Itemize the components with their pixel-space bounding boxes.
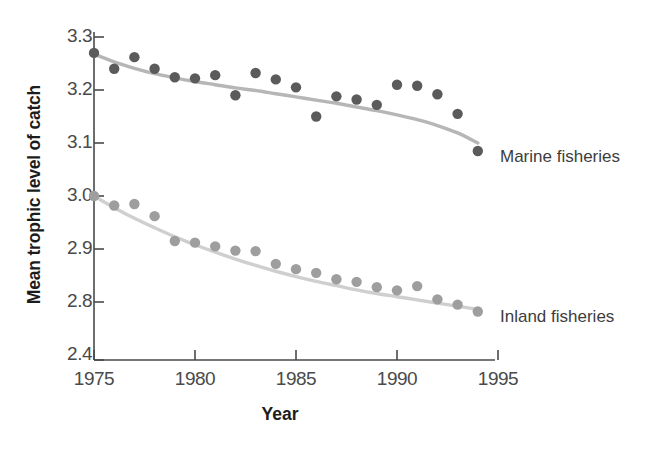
data-point: [271, 259, 281, 269]
axis-lines: [94, 32, 495, 360]
data-point: [129, 52, 139, 62]
data-point: [89, 191, 99, 201]
data-point: [412, 281, 422, 291]
data-point: [392, 285, 402, 295]
data-point: [210, 70, 220, 80]
data-point: [190, 237, 200, 247]
chart-figure: Mean trophic level of catch 3.3 3.2 3.1 …: [0, 0, 666, 452]
data-point: [230, 245, 240, 255]
data-point: [452, 299, 462, 309]
data-point: [210, 241, 220, 251]
plot-area: [0, 0, 666, 452]
data-point: [149, 64, 159, 74]
data-point: [190, 73, 200, 83]
data-point: [170, 72, 180, 82]
data-point: [250, 246, 260, 256]
data-point: [230, 90, 240, 100]
data-point: [271, 74, 281, 84]
data-point: [250, 68, 260, 78]
data-point: [372, 100, 382, 110]
data-point: [149, 211, 159, 221]
data-point: [170, 236, 180, 246]
data-point: [412, 81, 422, 91]
data-point: [291, 82, 301, 92]
data-point: [452, 109, 462, 119]
data-point: [432, 89, 442, 99]
data-point: [89, 48, 99, 58]
data-point: [311, 111, 321, 121]
x-axis-ticks: [94, 350, 498, 360]
data-point: [109, 200, 119, 210]
data-point: [473, 306, 483, 316]
data-point: [351, 94, 361, 104]
data-point: [473, 146, 483, 156]
data-point: [331, 91, 341, 101]
data-points: [89, 48, 483, 317]
data-point: [372, 282, 382, 292]
data-point: [351, 277, 361, 287]
data-point: [311, 268, 321, 278]
trend-lines: [94, 54, 478, 309]
data-point: [392, 80, 402, 90]
data-point: [331, 274, 341, 284]
data-point: [291, 264, 301, 274]
data-point: [129, 199, 139, 209]
series-label-marine: Marine fisheries: [500, 147, 620, 167]
data-point: [109, 64, 119, 74]
data-point: [432, 294, 442, 304]
series-label-inland: Inland fisheries: [500, 307, 614, 327]
